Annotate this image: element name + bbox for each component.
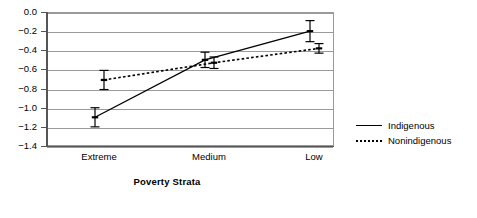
dotted-line-icon [356, 136, 382, 146]
y-tick-mark [41, 89, 46, 90]
legend-item-nonindigenous[interactable]: Nonindigenous [356, 133, 451, 148]
y-tick-mark [41, 12, 46, 13]
x-tick-label-medium: Medium [192, 152, 226, 162]
gridline [47, 70, 333, 71]
gridline [47, 109, 333, 110]
gridline [47, 128, 333, 129]
y-tick-mark [41, 50, 46, 51]
x-axis-line [46, 146, 334, 147]
x-tick-label-low: Low [305, 152, 322, 162]
chart-figure: 0.0−0.2−0.4−0.6−0.8−1.0−1.2−1.4 ExtremeM… [0, 0, 477, 218]
y-tick-mark [41, 127, 46, 128]
gridline [47, 147, 333, 148]
y-tick-label: −1.0 [18, 103, 37, 113]
chart-legend: IndigenousNonindigenous [356, 118, 451, 148]
y-tick-label: 0.0 [24, 7, 37, 17]
legend-label: Indigenous [388, 121, 434, 131]
y-tick-label: −1.4 [18, 141, 37, 151]
y-tick-mark [41, 31, 46, 32]
y-axis-line [46, 12, 48, 146]
y-tick-label: −0.6 [18, 64, 37, 74]
y-tick-label: −0.4 [18, 45, 37, 55]
gridline [47, 90, 333, 91]
plot-area [46, 12, 334, 146]
solid-line-icon [356, 121, 382, 131]
y-tick-label: −1.2 [18, 122, 37, 132]
y-tick-label: −0.2 [18, 26, 37, 36]
gridline [47, 51, 333, 52]
y-tick-mark [41, 108, 46, 109]
legend-item-indigenous[interactable]: Indigenous [356, 118, 451, 133]
legend-label: Nonindigenous [388, 136, 451, 146]
gridline [47, 13, 333, 14]
y-tick-mark [41, 69, 46, 70]
x-tick-label-extreme: Extreme [81, 152, 116, 162]
y-tick-label: −0.8 [18, 84, 37, 94]
x-axis-title: Poverty Strata [0, 176, 334, 187]
gridline [47, 32, 333, 33]
